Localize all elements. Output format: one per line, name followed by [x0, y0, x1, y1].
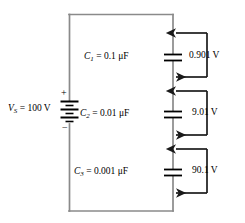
- voltage-drop-c3-label: 90.1 V: [192, 166, 218, 176]
- c2-value-text: = 0.01 μF: [90, 108, 129, 118]
- source-value-text: = 100 V: [17, 103, 50, 113]
- circuit-diagram: VS = 100 V + − C1 = 0.1 μF C2 = 0.01 μF …: [0, 0, 245, 223]
- capacitor-c2-symbol: [164, 112, 182, 118]
- source-label: VS = 100 V: [8, 104, 51, 115]
- voltage-drop-c2-label: 9.01 V: [192, 108, 218, 118]
- capacitor-c3-symbol: [164, 170, 182, 176]
- source-minus-sign: −: [62, 123, 68, 133]
- capacitor-c3-label: C3 = 0.001 μF: [74, 167, 128, 178]
- capacitor-c1-label: C1 = 0.1 μF: [84, 52, 129, 63]
- c3-value-text: = 0.001 μF: [84, 166, 128, 176]
- voltage-drop-c1-label: 0.901 V: [189, 51, 219, 61]
- capacitor-c2-label: C2 = 0.01 μF: [80, 109, 129, 120]
- source-plus-sign: +: [61, 88, 67, 98]
- capacitor-c1-symbol: [164, 55, 182, 61]
- c1-value-text: = 0.1 μF: [94, 51, 129, 61]
- battery-symbol: [61, 102, 79, 122]
